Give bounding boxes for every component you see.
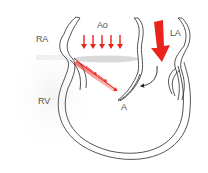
aortic-flow-arrows [81,35,123,49]
label-right-ventricle: RV [38,96,50,106]
label-anterior-leaflet: A [121,102,127,112]
curved-flow-arrow [142,66,157,86]
mitral-inflow-arrow [151,20,170,62]
label-right-atrium: RA [36,34,48,44]
label-left-atrium: LA [170,28,181,38]
background-halo [10,33,94,157]
heart-diagram: RA RV Ao LA A [0,0,208,173]
label-aorta: Ao [97,20,108,30]
